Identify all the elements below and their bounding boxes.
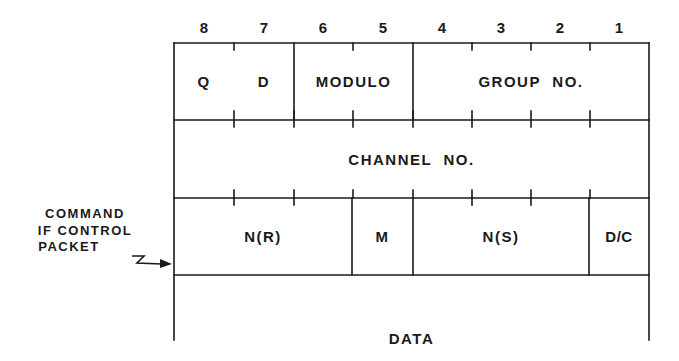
field-n-r: N(R) [174, 198, 352, 275]
field-m: M [352, 198, 413, 275]
field-modulo: MODULO [294, 43, 413, 120]
annotation-line-1: COMMAND [10, 206, 160, 223]
field-d: D [234, 43, 294, 120]
field-channel-no: CHANNEL NO. [174, 120, 649, 198]
bit-number-5: 5 [368, 19, 398, 36]
bit-number-6: 6 [308, 19, 338, 36]
bit-number-3: 3 [486, 19, 516, 36]
bit-number-8: 8 [189, 19, 219, 36]
field-q: Q [174, 43, 234, 120]
bit-number-7: 7 [249, 19, 279, 36]
annotation-line-3: PACKET [10, 239, 160, 256]
field-data: DATA [174, 326, 649, 350]
field-group-no: GROUP NO. [413, 43, 649, 120]
field-n-s: N(S) [413, 198, 589, 275]
field-d-c: D/C [589, 198, 649, 275]
bit-number-4: 4 [427, 19, 457, 36]
bit-number-2: 2 [545, 19, 575, 36]
bit-number-1: 1 [604, 19, 634, 36]
annotation-line-2: IF CONTROL [10, 223, 160, 240]
command-annotation: COMMAND IF CONTROL PACKET [10, 206, 160, 256]
arrow-icon [132, 256, 172, 268]
